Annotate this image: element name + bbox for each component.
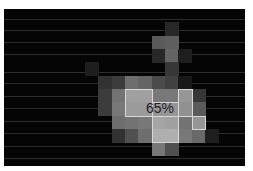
- heatmap-cell: [205, 129, 219, 143]
- heatmap-cell: [178, 129, 192, 143]
- heatmap-cell: [192, 89, 206, 103]
- heatmap-cell: [178, 49, 192, 63]
- heatmap-cell: [125, 76, 139, 90]
- heatmap-cell: [112, 89, 126, 103]
- heatmap-cell: [112, 102, 126, 116]
- heatmap-cell: [112, 129, 126, 143]
- heatmap-cell: [112, 116, 126, 130]
- heatmap-cell: [165, 76, 179, 90]
- heatmap-cell: [112, 76, 126, 90]
- heatmap-cell: [138, 116, 152, 130]
- heatmap-cell: [178, 76, 192, 90]
- heatmap-cell: [152, 36, 166, 50]
- heatmap-cell: [152, 49, 166, 63]
- heatmap-cell: [152, 76, 166, 90]
- heatmap-cell: [165, 62, 179, 76]
- heatmap-cell: [165, 36, 179, 50]
- heatmap-cell: [152, 142, 166, 156]
- cell-outline: [178, 89, 192, 117]
- cell-outline: [192, 116, 206, 130]
- scanline: [4, 158, 245, 159]
- heatmap-cell: [178, 116, 192, 130]
- scanline: [4, 54, 245, 55]
- heatmap-cell: [192, 129, 206, 143]
- heatmap-cell: [165, 49, 179, 63]
- heatmap-cell: [98, 102, 112, 116]
- heatmap-cell: [125, 129, 139, 143]
- confidence-label: 65%: [146, 101, 174, 115]
- scanline: [4, 30, 245, 31]
- scanline: [4, 42, 245, 43]
- heatmap-cell: [165, 22, 179, 36]
- scanline: [4, 19, 245, 20]
- heatmap-cell: [165, 142, 179, 156]
- heatmap-cell: [192, 102, 206, 116]
- heatmap-cell: [98, 89, 112, 103]
- cell-outline: [152, 116, 180, 144]
- heatmap-cell: [125, 116, 139, 130]
- scanline: [4, 72, 245, 73]
- scanline: [4, 146, 245, 147]
- heatmap-cell: [138, 76, 152, 90]
- heatmap-panel: 65%: [4, 9, 245, 166]
- heatmap-cell: [85, 62, 99, 76]
- heatmap-cell: [138, 129, 152, 143]
- heatmap-cell: [98, 76, 112, 90]
